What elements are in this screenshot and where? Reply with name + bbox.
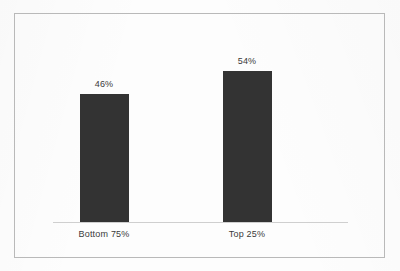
bar-rect[interactable] (80, 94, 129, 222)
x-axis-tick-label: Top 25% (182, 229, 312, 239)
x-axis-tick-label: Bottom 75% (39, 229, 169, 239)
bar-value-label: 54% (238, 56, 257, 67)
bar-chart-figure: 46% 54% Bottom 75% Top 25% (0, 0, 400, 271)
bar-column: 46% (39, 79, 169, 222)
bar-rect[interactable] (223, 71, 272, 222)
plot-area: 46% 54% Bottom 75% Top 25% (14, 13, 385, 258)
bar-column: 54% (182, 56, 312, 222)
x-axis-baseline (53, 222, 348, 223)
bar-value-label: 46% (95, 79, 114, 90)
